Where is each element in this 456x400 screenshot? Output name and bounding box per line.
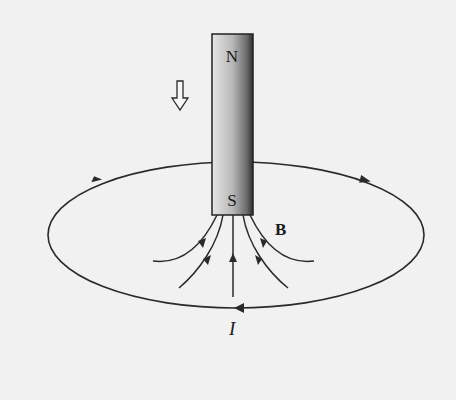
loop-arrow-left-icon — [90, 175, 102, 183]
diagram-canvas: N S B I — [0, 0, 456, 400]
field-label-b: B — [275, 220, 286, 239]
north-pole-label: N — [226, 47, 238, 66]
loop-arrow-bottom-icon — [234, 303, 244, 313]
current-label-i: I — [228, 318, 237, 339]
down-arrow-icon — [172, 81, 188, 110]
south-pole-label: S — [227, 191, 236, 210]
